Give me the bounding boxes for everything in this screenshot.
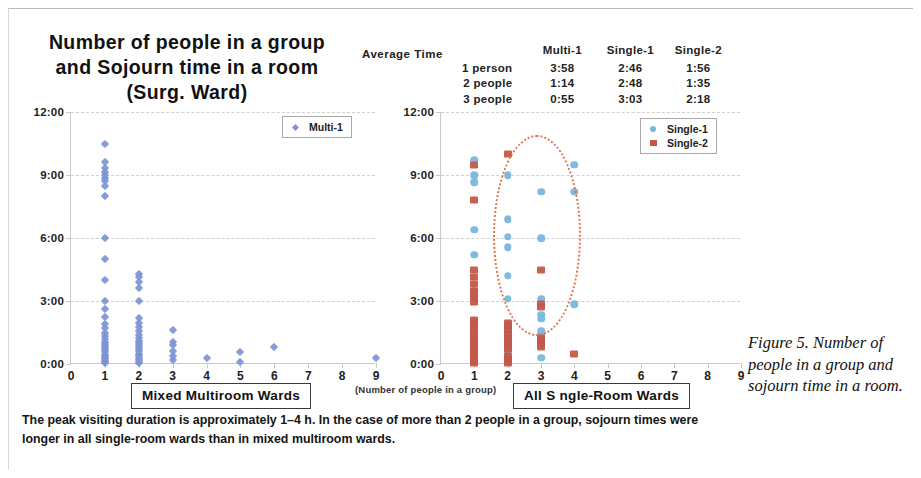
figure-caption: The peak visiting duration is approximat… [22, 411, 722, 449]
data-point-single-2 [470, 197, 478, 204]
y-tick-label: 0:00 [40, 358, 64, 370]
x-tick-label: 5 [604, 369, 611, 383]
corner-cell [462, 44, 528, 62]
x-tick-mark [308, 363, 309, 368]
figure-number: Figure 5. [748, 333, 809, 352]
row-label-1-person: 1 person [462, 62, 528, 78]
x-tick-label: 8 [704, 369, 711, 383]
legend-item-single2: Single-2 [646, 136, 708, 150]
table-row: 3 people 0:55 3:03 2:18 [462, 93, 732, 109]
data-point-single-2 [470, 299, 478, 306]
data-point-single-2 [570, 350, 578, 357]
x-tick-mark [741, 363, 742, 368]
y-tick-mark [436, 175, 441, 176]
circle-marker-icon [646, 126, 660, 132]
y-tick-mark [66, 364, 71, 365]
data-point-multi-1 [135, 297, 143, 305]
legend-item-multi1: Multi-1 [288, 120, 343, 134]
label-text-all-single-room: All S ngle-Room Wards [524, 388, 679, 403]
table-row: 2 people 1:14 2:48 1:35 [462, 77, 732, 93]
x-tick-mark [641, 363, 642, 368]
x-tick-mark [376, 363, 377, 368]
x-tick-label: 9 [373, 369, 380, 383]
y-tick-label: 0:00 [410, 358, 434, 370]
legend-left: Multi-1 [282, 116, 352, 138]
data-point-multi-1 [101, 255, 109, 263]
x-tick-label: 7 [671, 369, 678, 383]
x-tick-label: 3 [538, 369, 545, 383]
data-point-single-1 [504, 171, 512, 179]
label-box-mixed-multiroom-wards: Mixed Multiroom Wards [131, 383, 311, 409]
y-tick-label: 12:00 [34, 106, 64, 118]
x-tick-mark [207, 363, 208, 368]
data-point-single-2 [537, 266, 545, 273]
x-tick-mark [674, 363, 675, 368]
diamond-marker-icon [288, 125, 302, 130]
gridline [441, 301, 740, 302]
data-point-single-1 [537, 188, 545, 196]
x-tick-label: 5 [237, 369, 244, 383]
data-point-multi-1 [270, 343, 278, 351]
data-point-single-1 [471, 179, 479, 187]
row-label-3-people: 3 people [462, 93, 528, 109]
x-tick-label: 4 [203, 369, 210, 383]
title-line-3: (Surg. Ward) [22, 80, 352, 105]
gridline [441, 238, 740, 239]
x-tick-mark [274, 363, 275, 368]
square-marker-icon [646, 140, 660, 146]
x-tick-mark [342, 363, 343, 368]
y-tick-mark [66, 112, 71, 113]
data-point-multi-1 [168, 326, 176, 334]
data-point-single-1 [537, 315, 545, 323]
cell-2people-multi1: 1:14 [528, 77, 596, 93]
y-tick-mark [436, 238, 441, 239]
data-point-multi-1 [202, 353, 210, 361]
data-point-single-1 [504, 272, 512, 280]
title-line-1: Number of people in a group [22, 30, 352, 55]
table-header-row: Multi-1 Single-1 Single-2 [462, 44, 732, 62]
data-point-single-1 [537, 234, 545, 242]
data-point-multi-1 [101, 234, 109, 242]
chart-all-single-room-wards: 0:003:006:009:0012:000123456789 Single-1… [440, 112, 740, 364]
y-tick-mark [66, 238, 71, 239]
y-tick-mark [66, 175, 71, 176]
data-point-single-2 [470, 359, 478, 366]
y-tick-label: 9:00 [40, 169, 64, 181]
x-tick-label: 2 [135, 369, 142, 383]
cell-3people-single1: 3:03 [596, 93, 664, 109]
y-tick-mark [436, 364, 441, 365]
chart-mixed-multiroom-wards: 0:003:006:009:0012:000123456789 Multi-1 [70, 112, 375, 364]
x-tick-label: 9 [738, 369, 745, 383]
column-header-multi1: Multi-1 [528, 44, 596, 62]
y-tick-label: 6:00 [410, 232, 434, 244]
x-tick-mark [608, 363, 609, 368]
x-tick-label: 7 [305, 369, 312, 383]
data-point-single-2 [470, 161, 478, 168]
label-text-mixed-multiroom: Mixed Multiroom Wards [142, 388, 300, 403]
legend-label-single2: Single-2 [667, 136, 708, 150]
data-point-single-1 [571, 161, 579, 169]
x-tick-label: 4 [571, 369, 578, 383]
x-tick-label: 6 [638, 369, 645, 383]
gridline [71, 175, 375, 176]
x-tick-label: 0 [438, 369, 445, 383]
legend-label-single1: Single-1 [667, 122, 708, 136]
y-tick-mark [436, 112, 441, 113]
y-tick-mark [436, 301, 441, 302]
cell-1person-single2: 1:56 [664, 62, 732, 78]
title-line-2: and Sojourn time in a room [22, 55, 352, 80]
column-header-single1: Single-1 [596, 44, 664, 62]
gridline [71, 112, 375, 113]
column-header-single2: Single-2 [664, 44, 732, 62]
figure-side-note: Figure 5. Number of people in a group an… [748, 332, 908, 397]
cell-3people-single2: 2:18 [664, 93, 732, 109]
x-tick-mark [708, 363, 709, 368]
x-tick-mark [574, 363, 575, 368]
x-axis-note: (Number of people in a group) [355, 384, 496, 395]
gridline [441, 175, 740, 176]
x-tick-label: 6 [271, 369, 278, 383]
legend-label-multi1: Multi-1 [309, 120, 343, 134]
data-point-single-2 [504, 360, 512, 367]
cell-3people-multi1: 0:55 [528, 93, 596, 109]
data-point-single-1 [571, 300, 579, 308]
